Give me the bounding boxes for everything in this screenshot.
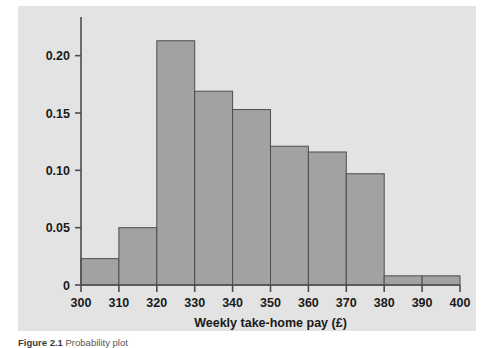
histogram-bar [271,146,309,285]
x-tick-label: 400 [450,296,471,310]
x-tick-label: 340 [222,296,243,310]
x-axis-title: Weekly take-home pay (£) [194,316,347,330]
histogram-bar [81,259,119,285]
chart-panel: 00.050.100.150.2030031032033034035036037… [18,6,476,331]
x-tick-label: 390 [412,296,433,310]
figure-container: 00.050.100.150.2030031032033034035036037… [0,0,497,348]
chart-canvas: 00.050.100.150.2030031032033034035036037… [18,6,476,331]
x-tick-label: 330 [184,296,205,310]
x-tick-label: 310 [108,296,129,310]
histogram-bar [346,174,384,285]
x-axis-ticks: 300310320330340350360370380390400 [71,285,471,310]
x-tick-label: 350 [260,296,281,310]
x-tick-label: 320 [146,296,167,310]
bars-group [81,41,460,285]
x-tick-label: 370 [336,296,357,310]
histogram-bar [233,110,271,285]
x-tick-label: 360 [298,296,319,310]
caption-number: Figure [18,337,47,348]
y-tick-label: 0.15 [46,107,70,121]
histogram-bar [157,41,195,285]
y-tick-label: 0.20 [46,49,70,63]
caption-text: Probability plot [66,337,128,348]
histogram-bar [119,228,157,285]
histogram-bar [384,276,422,285]
figure-caption: Figure 2.1 Probability plot [18,337,458,348]
caption-index: 2.1 [50,337,63,348]
histogram-bar [195,91,233,285]
y-axis-ticks: 00.050.100.150.20 [46,49,81,292]
y-tick-label: 0 [63,279,70,293]
x-tick-label: 380 [374,296,395,310]
x-tick-label: 300 [71,296,92,310]
histogram-bar [308,152,346,285]
histogram-plot: 00.050.100.150.2030031032033034035036037… [18,6,476,331]
histogram-bar [422,276,460,285]
y-tick-label: 0.10 [46,164,70,178]
y-tick-label: 0.05 [46,221,70,235]
